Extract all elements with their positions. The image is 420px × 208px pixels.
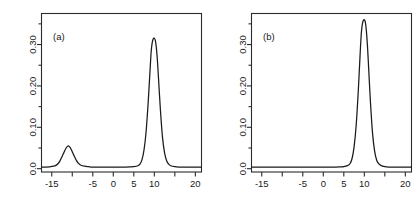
b-y-tick-label: 0.10 [237,118,248,137]
panel-b-frame [252,14,412,173]
panel-a-y-tick-labels: 0.00.100.200.30 [27,35,38,175]
a-x-tick-label: 5 [131,178,136,189]
panel-a-label: (a) [53,31,65,42]
b-y-tick-label: 0.30 [237,35,248,54]
b-x-tick-label: -15 [255,178,269,189]
a-y-tick-label: 0.10 [27,118,38,137]
panel-b: 0.00.100.200.30 -15-5051020 (b) [210,0,420,208]
a-x-tick-label: 10 [149,178,160,189]
a-y-tick-label: 0.20 [27,77,38,96]
panel-a-density-curve [42,38,202,167]
b-y-tick-label: 0.20 [237,77,248,96]
b-x-tick-label: 10 [359,178,370,189]
a-y-tick-label: 0.30 [27,35,38,54]
panel-b-x-tick-labels: -15-5051020 [255,178,411,189]
panel-b-label: (b) [263,31,275,42]
figure-container: 0.00.100.200.30 -15-5051020 (a) 0.00.100… [0,0,420,208]
panel-b-plot: 0.00.100.200.30 -15-5051020 (b) [210,0,420,208]
b-x-tick-label: 5 [341,178,346,189]
panel-a-plot: 0.00.100.200.30 -15-5051020 (a) [0,0,210,208]
a-y-tick-label: 0.0 [27,162,38,175]
b-x-tick-label: 0 [321,178,326,189]
panel-a-x-ticks [52,172,196,177]
a-x-tick-label: 0 [111,178,116,189]
a-x-tick-label: -5 [89,178,97,189]
b-y-tick-label: 0.0 [237,162,248,175]
panel-b-y-tick-labels: 0.00.100.200.30 [237,35,248,175]
b-x-tick-label: 20 [400,178,411,189]
panel-b-x-ticks [262,172,406,177]
panel-a: 0.00.100.200.30 -15-5051020 (a) [0,0,210,208]
panel-a-x-tick-labels: -15-5051020 [45,178,201,189]
a-x-tick-label: 20 [190,178,201,189]
panel-b-density-curve [252,20,412,167]
b-x-tick-label: -5 [299,178,307,189]
a-x-tick-label: -15 [45,178,59,189]
